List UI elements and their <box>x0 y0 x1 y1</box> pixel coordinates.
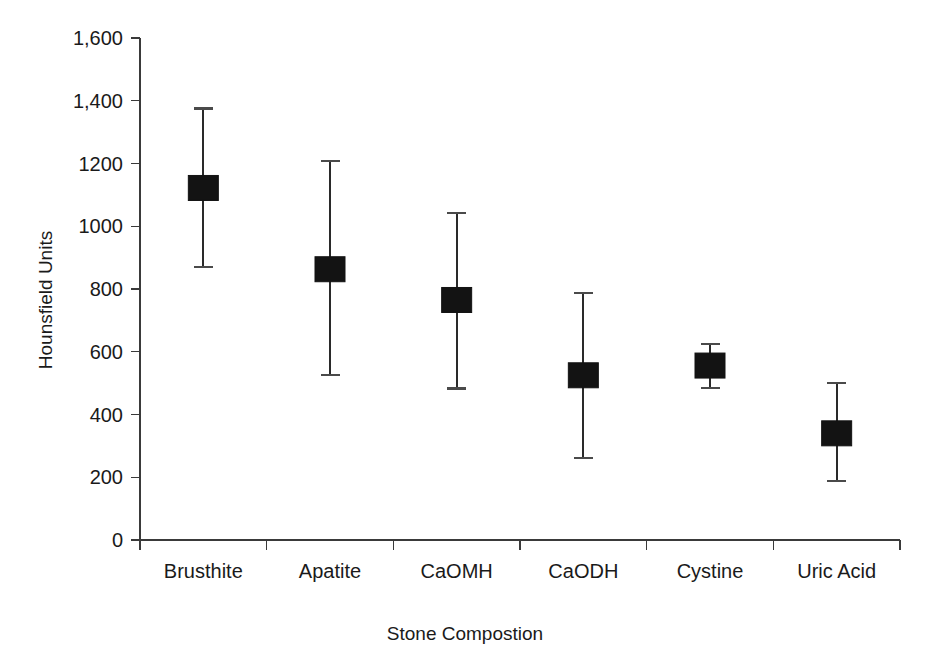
x-tick-label: Apatite <box>299 560 361 582</box>
data-marker <box>695 353 725 378</box>
x-axis-title: Stone Compostion <box>387 623 543 644</box>
x-tick-label: Uric Acid <box>797 560 876 582</box>
y-tick-label: 1200 <box>79 153 124 175</box>
y-tick-label: 0 <box>112 529 123 551</box>
y-tick-label: 800 <box>90 278 123 300</box>
x-tick-label: Brusthite <box>164 560 243 582</box>
y-tick-label: 1,600 <box>73 27 123 49</box>
x-tick-label: CaOMH <box>421 560 493 582</box>
y-tick-label: 1000 <box>79 215 124 237</box>
chart-container: 0200400600800100012001,4001,600 Brusthit… <box>0 0 926 665</box>
y-tick-label: 200 <box>90 466 123 488</box>
y-tick-label: 1,400 <box>73 90 123 112</box>
y-tick-label: 600 <box>90 341 123 363</box>
data-marker <box>568 363 598 388</box>
data-marker <box>822 421 852 446</box>
y-axis-title: Hounsfield Units <box>35 231 56 369</box>
data-marker <box>188 175 218 200</box>
x-tick-label: CaODH <box>548 560 618 582</box>
x-tick-label: Cystine <box>677 560 744 582</box>
data-marker <box>315 257 345 282</box>
y-tick-label: 400 <box>90 404 123 426</box>
data-marker <box>442 287 472 312</box>
errorbar-scatter-plot: 0200400600800100012001,4001,600 Brusthit… <box>0 0 926 665</box>
